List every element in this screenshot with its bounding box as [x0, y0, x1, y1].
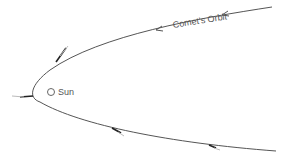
sun-icon: [47, 88, 55, 96]
sun-marker: Sun: [47, 87, 74, 97]
comet-orbit-diagram: [0, 0, 289, 163]
sun-label: Sun: [58, 87, 74, 97]
orbit-path: [33, 7, 276, 151]
comet-icon: [12, 96, 33, 97]
